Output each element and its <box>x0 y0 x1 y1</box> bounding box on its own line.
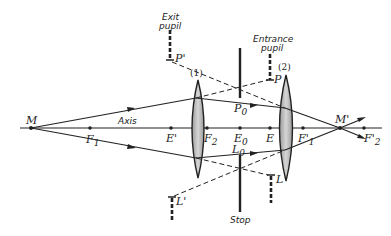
lens-2 <box>280 75 293 181</box>
point-p: P <box>273 73 282 86</box>
lens-1 <box>192 80 204 178</box>
axis-label: Axis <box>117 116 137 126</box>
point-e: E <box>265 132 274 145</box>
dashed-rays <box>172 62 285 196</box>
point-f1: F1 <box>85 133 99 148</box>
optical-diagram: Axis (1) (2) Stop <box>0 0 391 236</box>
point-l: L <box>275 173 283 186</box>
point-f2-prime: F'2 <box>363 132 381 147</box>
exit-pupil <box>166 30 174 60</box>
point-l-prime: L' <box>175 195 186 208</box>
point-p0: P0 <box>233 102 247 117</box>
entrance-pupil <box>266 54 274 80</box>
entrance-pupil-label-2: pupil <box>260 43 284 53</box>
point-m-prime: M' <box>334 113 349 126</box>
point-f1-prime: F'1 <box>297 132 314 147</box>
lens-1-label: (1) <box>190 68 203 78</box>
entrance-pupil-lower <box>267 175 275 203</box>
stop-label: Stop <box>230 215 251 225</box>
point-m: M <box>25 114 38 127</box>
point-f2: F2 <box>203 132 218 147</box>
exit-pupil-label-2: pupil <box>158 21 182 31</box>
point-e-prime: E' <box>165 132 177 145</box>
point-p-prime: P' <box>174 52 185 65</box>
exit-pupil-lower <box>168 197 176 222</box>
lens-2-label: (2) <box>278 62 291 72</box>
